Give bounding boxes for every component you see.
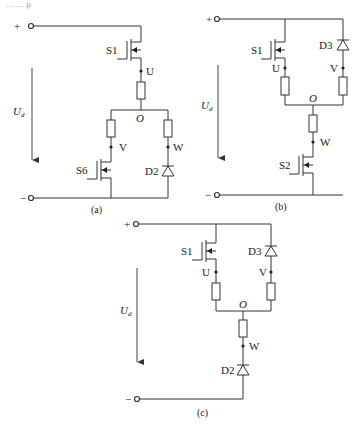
node-w-label: W [173,141,184,153]
node-u-label: U [202,266,210,278]
minus-terminal-label: − [205,189,211,201]
minus-terminal [29,196,34,201]
node-v-label: V [119,141,127,153]
minus-terminal-label: − [20,192,26,204]
plus-terminal [134,222,139,227]
node-w-label: W [249,340,260,352]
minus-terminal [215,193,220,198]
plus-terminal-label: + [206,13,212,25]
plus-terminal [215,17,220,22]
minus-terminal-label: − [125,393,131,405]
switch-label: S1 [181,245,193,257]
node-v-label: V [259,266,267,278]
diode-label: D3 [319,39,333,51]
node-o-label: O [136,112,144,124]
node-u-label: U [272,62,280,74]
plus-terminal-label: + [14,20,20,32]
caption-b: (b) [275,201,287,213]
voltage-label: Ud [13,105,25,119]
switch-label: S2 [279,159,291,171]
voltage-label: Ud [201,99,213,113]
node-w-label: W [320,136,331,148]
switch-label: S1 [251,44,263,56]
minus-terminal [135,397,140,402]
node-o-label: O [239,298,247,310]
switch-s1-a: S1 [106,39,141,78]
plus-terminal-label: + [124,218,130,230]
caption-a: (a) [91,204,102,216]
node-o-label: O [309,92,317,104]
diode-label: D2 [145,165,158,177]
caption-c: (c) [197,407,208,419]
diode-label: D2 [221,364,234,376]
voltage-label: Ud [120,304,132,318]
circuit-a: + S1 U O V S6 W D2 [13,20,184,216]
circuit-c: + S1 U D3 V O W D2 − Ud ( [120,218,277,419]
diode-label: D3 [248,245,262,257]
circuit-b: + S1 U D3 V O W S2 − Ud [201,13,349,213]
node-v-label: V [330,62,338,74]
circuit-diagram: …… μ + S1 U O V S6 [0,0,359,433]
header-fragment: …… μ [6,0,31,9]
switch-label: S6 [76,164,88,176]
switch-label: S1 [106,44,118,56]
node-u-label: U [146,65,154,77]
plus-terminal [29,24,34,29]
